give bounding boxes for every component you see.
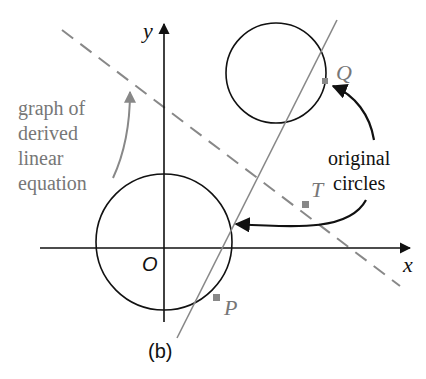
annotation-line: original: [328, 146, 390, 171]
point-Q: [322, 78, 328, 84]
original-circles-annotation: original circles: [328, 146, 390, 196]
x-axis-label: x: [403, 254, 413, 276]
point-P: [213, 294, 220, 301]
arrow-to-circle: [236, 200, 366, 226]
arrow-to-Q: [333, 86, 374, 140]
origin-label: O: [142, 254, 158, 274]
panel-label: (b): [148, 341, 172, 361]
annotation-line: circles: [328, 171, 390, 196]
annotation-line: linear: [18, 146, 87, 171]
annotation-line: derived: [18, 121, 87, 146]
point-T: [302, 201, 309, 208]
annotation-line: equation: [18, 171, 87, 196]
y-axis-label: y: [143, 20, 153, 42]
annotation-line: graph of: [18, 96, 87, 121]
derived-line-arrow: [113, 92, 130, 178]
point-Q-label: Q: [336, 62, 352, 84]
point-P-label: P: [224, 297, 237, 319]
derived-line-annotation: graph of derived linear equation: [18, 96, 87, 196]
point-T-label: T: [311, 179, 323, 201]
